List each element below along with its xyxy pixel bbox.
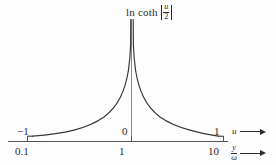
y-axis-label: ln coth u 2 — [126, 3, 172, 22]
arrow-shaft — [240, 153, 262, 154]
curve-right-branch — [133, 20, 218, 137]
fraction-u-over-2: u 2 — [162, 3, 170, 22]
fraction-denominator-omega: ω — [231, 154, 237, 162]
absolute-value-group: u 2 — [161, 3, 172, 22]
u-axis-tick-zero: 0 — [122, 126, 128, 137]
right-arrow-icon — [240, 128, 266, 135]
fraction-numerator-y: y — [232, 144, 236, 152]
u-axis-name-text: u — [232, 127, 237, 136]
y-omega-axis-tick-1: 1 — [119, 146, 125, 157]
arrow-head — [260, 150, 266, 156]
plot-canvas — [0, 0, 276, 165]
y-omega-axis-name-group: y ω — [231, 144, 266, 163]
fraction-numerator: u — [164, 3, 168, 11]
u-axis-tick-neg1: −1 — [17, 126, 29, 137]
fraction-denominator: 2 — [164, 13, 168, 21]
absolute-bar-right — [171, 5, 172, 20]
y-omega-axis-tick-0-1: 0.1 — [15, 146, 29, 157]
figure-plot-ln-coth: ln coth u 2 −1 0 1 0.1 1 10 u y ω — [0, 0, 276, 165]
y-omega-axis-tick-10: 10 — [208, 146, 219, 157]
u-axis-tick-pos1: 1 — [214, 126, 220, 137]
fraction-y-over-omega: y ω — [231, 144, 237, 163]
arrow-shaft — [240, 131, 262, 132]
y-axis-label-function: ln coth — [126, 7, 158, 18]
arrow-head — [260, 129, 266, 135]
right-arrow-icon — [240, 150, 266, 157]
curve-left-branch — [33, 20, 131, 137]
u-axis-name-group: u — [232, 127, 266, 136]
